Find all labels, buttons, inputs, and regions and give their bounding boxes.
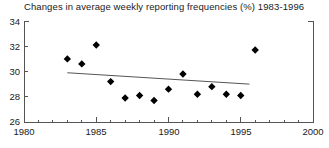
plot-frame-border [24, 21, 313, 122]
data-point [195, 92, 200, 97]
data-point [151, 98, 156, 103]
data-point [79, 61, 84, 66]
data-point [253, 47, 258, 52]
axis-ticks [24, 21, 313, 122]
chart-figure: Changes in average weekly reporting freq… [0, 0, 329, 148]
data-point [65, 56, 70, 61]
trend-line [67, 73, 249, 84]
data-point [166, 86, 171, 91]
data-point [238, 93, 243, 98]
data-point [209, 84, 214, 89]
data-point [108, 79, 113, 84]
data-point [94, 42, 99, 47]
data-point [122, 95, 127, 100]
data-point [137, 93, 142, 98]
data-point [224, 92, 229, 97]
plot-canvas [0, 0, 329, 148]
data-points [65, 42, 258, 103]
data-point [180, 71, 185, 76]
